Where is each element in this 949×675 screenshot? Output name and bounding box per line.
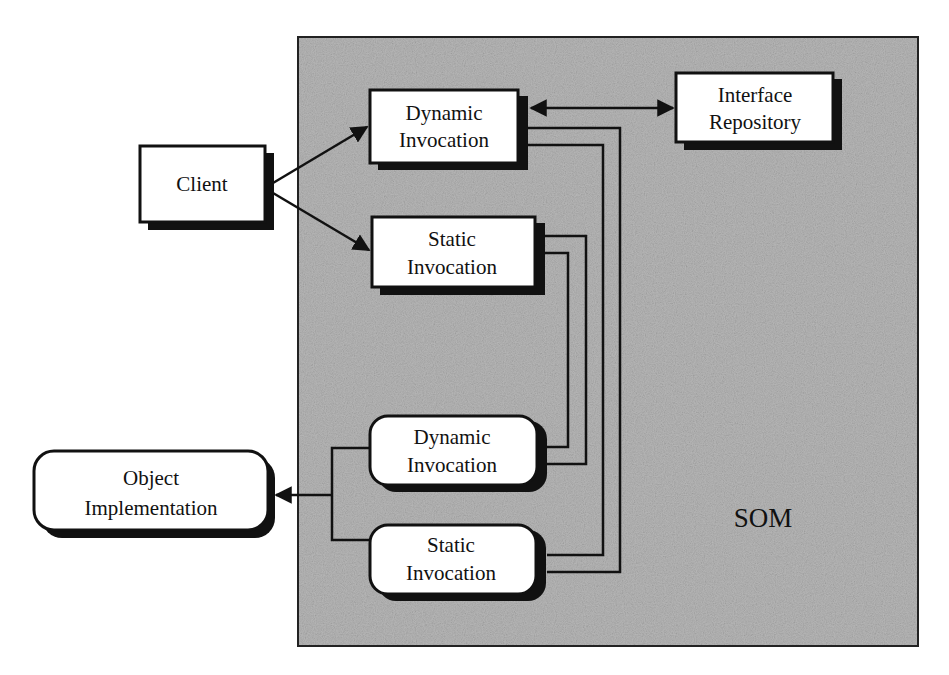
- node-dynamic-invocation-client: Dynamic Invocation: [370, 90, 528, 170]
- dynamic-invocation-server-label-line1: Dynamic: [414, 425, 491, 449]
- interface-repository-label-line2: Repository: [709, 110, 802, 134]
- static-invocation-client-label-line1: Static: [428, 227, 476, 251]
- som-label: SOM: [734, 503, 793, 533]
- dynamic-invocation-client-label-line1: Dynamic: [406, 101, 483, 125]
- static-invocation-server-label-line2: Invocation: [406, 561, 496, 585]
- static-invocation-client-label-line2: Invocation: [407, 255, 497, 279]
- static-invocation-server-label-line1: Static: [427, 533, 475, 557]
- node-client: Client: [140, 146, 274, 230]
- object-implementation-label-line1: Object: [123, 466, 179, 490]
- node-static-invocation-client: Static Invocation: [372, 217, 545, 295]
- node-interface-repository: Interface Repository: [676, 73, 842, 150]
- som-architecture-diagram: SOM Client Dynamic Invocation Static Inv…: [0, 0, 949, 675]
- client-label: Client: [176, 172, 227, 196]
- dynamic-invocation-server-label-line2: Invocation: [407, 453, 497, 477]
- dynamic-invocation-client-label-line2: Invocation: [399, 128, 489, 152]
- node-static-invocation-server: Static Invocation: [370, 525, 546, 601]
- node-object-implementation: Object Implementation: [34, 451, 275, 538]
- node-dynamic-invocation-server: Dynamic Invocation: [370, 416, 547, 492]
- object-implementation-label-line2: Implementation: [85, 496, 218, 520]
- interface-repository-label-line1: Interface: [718, 83, 793, 107]
